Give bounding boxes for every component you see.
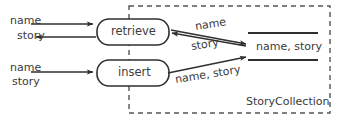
process-label-retrieve[interactable]: retrieve — [111, 26, 156, 37]
flow-label-in-retrieve-name: name — [10, 15, 41, 26]
flow-label-in-insert-name: name — [10, 62, 41, 73]
flow-label-out-retrieve-story: story — [17, 30, 45, 41]
process-label-insert[interactable]: insert — [118, 67, 151, 78]
flow-label-in-insert-story: story — [12, 76, 40, 87]
trust-boundary-label: StoryCollection — [246, 96, 329, 107]
datastore-label: name, story — [256, 41, 322, 52]
diagram-canvas: retrieve insert name story name story na… — [0, 0, 339, 123]
